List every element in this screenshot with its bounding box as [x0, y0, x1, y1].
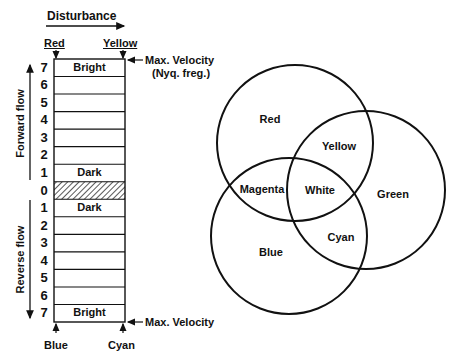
- scale-row-number: 5: [38, 271, 50, 284]
- scale-row-number: 4: [38, 254, 50, 267]
- forward-flow-label: Forward flow: [15, 84, 26, 164]
- scale-row-number: 2: [38, 148, 50, 161]
- scale-row-number: 4: [38, 113, 50, 126]
- reverse-flow-label: Reverse flow: [15, 220, 26, 300]
- scale-row-label: Dark: [54, 202, 125, 213]
- nyquist-frequency-label: (Nyq. freg.): [152, 68, 210, 79]
- venn-label-blue: Blue: [259, 247, 283, 258]
- max-velocity-top-label: Max. Velocity: [145, 55, 214, 66]
- color-doppler-diagram: Disturbance Red Yellow Max. Velocity (Ny…: [0, 0, 460, 357]
- venn-label-magenta: Magenta: [240, 184, 285, 195]
- zero-velocity-hatch: [54, 182, 125, 200]
- venn-label-green: Green: [377, 189, 409, 200]
- venn-label-white: White: [305, 185, 335, 196]
- scale-row-number: 7: [38, 61, 50, 74]
- scale-row-number: 5: [38, 96, 50, 109]
- scale-row-label: Dark: [54, 167, 125, 178]
- velocity-scale-box: [54, 59, 125, 322]
- blue-bottom-label: Blue: [44, 340, 68, 351]
- scale-row-number: 2: [38, 219, 50, 232]
- red-top-label: Red: [44, 38, 65, 49]
- scale-row-number: 6: [38, 289, 50, 302]
- venn-label-yellow: Yellow: [322, 141, 356, 152]
- scale-row-number: 3: [38, 131, 50, 144]
- scale-row-label: Bright: [54, 62, 125, 73]
- venn-label-red: Red: [260, 114, 281, 125]
- scale-row-number: 3: [38, 236, 50, 249]
- venn-label-cyan: Cyan: [328, 232, 355, 243]
- scale-row-label: Bright: [54, 307, 125, 318]
- scale-row-number: 1: [38, 166, 50, 179]
- yellow-top-label: Yellow: [103, 38, 137, 49]
- disturbance-label: Disturbance: [47, 10, 116, 22]
- scale-row-number: 6: [38, 78, 50, 91]
- scale-row-number: 0: [38, 184, 50, 197]
- diagram-lines: [0, 0, 460, 357]
- scale-row-number: 1: [38, 201, 50, 214]
- cyan-bottom-label: Cyan: [108, 340, 135, 351]
- max-velocity-bottom-label: Max. Velocity: [145, 317, 214, 328]
- scale-row-number: 7: [38, 306, 50, 319]
